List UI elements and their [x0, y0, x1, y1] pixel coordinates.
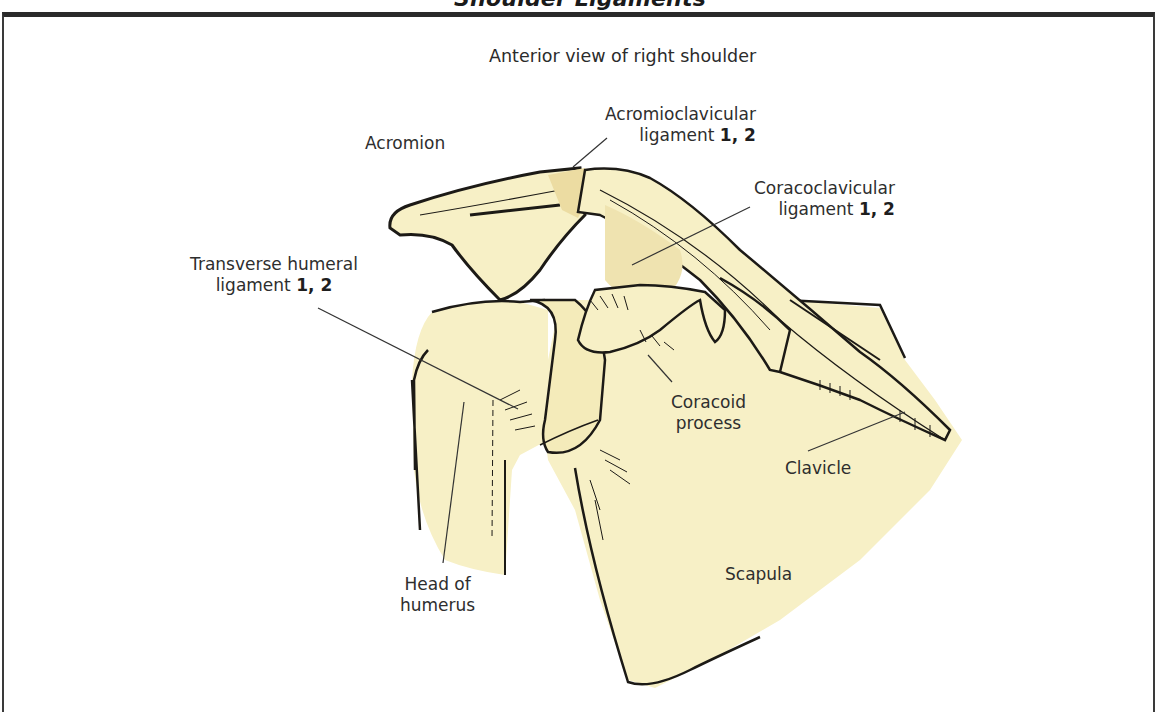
label-acromioclavicular-ligament: Acromioclavicular ligament 1, 2: [605, 104, 756, 146]
label-acromioclavicular-line1: Acromioclavicular: [605, 104, 756, 125]
label-coracoid-process: Coracoid process: [671, 392, 746, 434]
label-acromioclavicular-line2: ligament 1, 2: [605, 125, 756, 146]
reference-numbers: 1, 2: [859, 199, 895, 219]
label-transverse-humeral-ligament: Transverse humeral ligament 1, 2: [190, 254, 358, 296]
leader-acromioclavicular: [573, 138, 607, 167]
label-coracoclavicular-ligament: Coracoclavicular ligament 1, 2: [754, 178, 895, 220]
label-acromion: Acromion: [365, 133, 445, 154]
reference-numbers: 1, 2: [720, 125, 756, 145]
reference-numbers: 1, 2: [296, 275, 332, 295]
label-head-of-humerus: Head of humerus: [400, 574, 475, 616]
label-clavicle: Clavicle: [785, 458, 851, 479]
humerus-shape: [412, 301, 548, 575]
label-scapula: Scapula: [725, 564, 792, 585]
